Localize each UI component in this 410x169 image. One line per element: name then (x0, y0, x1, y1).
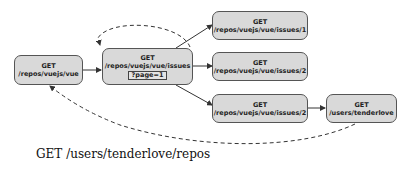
node-method: GET (253, 101, 267, 109)
node-method: GET (140, 54, 154, 62)
node-path: /repos/vuejs/vue (18, 70, 78, 78)
node-path: /users/tenderlove (329, 109, 393, 117)
node-issue2b: GET /repos/vuejs/vue/issues/2 (212, 94, 308, 123)
node-path: /repos/vuejs/vue/issues/2 (214, 109, 307, 117)
node-method: GET (41, 62, 55, 70)
edge-issues-to-issue2b (176, 85, 212, 105)
caption: GET /users/tenderlove/repos (36, 147, 210, 161)
node-method: GET (354, 101, 368, 109)
node-query: ?page=1 (128, 71, 168, 80)
node-user: GET /users/tenderlove (326, 94, 397, 123)
edge-user-to-repo (50, 86, 355, 144)
edge-issues-self-loop (98, 25, 190, 47)
node-issue2a: GET /repos/vuejs/vue/issues/2 (212, 52, 308, 81)
node-repo: GET /repos/vuejs/vue (14, 55, 83, 85)
node-path: /repos/vuejs/vue/issues/2 (214, 67, 307, 75)
node-method: GET (253, 59, 267, 67)
node-issues: GET /repos/vuejs/vue/issues ?page=1 (102, 48, 193, 85)
node-method: GET (253, 18, 267, 26)
node-issue1: GET /repos/vuejs/vue/issues/1 (212, 11, 308, 40)
request-flow-diagram: GET /repos/vuejs/vue GET /repos/vuejs/vu… (0, 0, 410, 169)
node-path: /repos/vuejs/vue/issues/1 (214, 26, 307, 34)
edge-issues-to-issue1 (176, 25, 212, 48)
node-path: /repos/vuejs/vue/issues (105, 62, 191, 70)
